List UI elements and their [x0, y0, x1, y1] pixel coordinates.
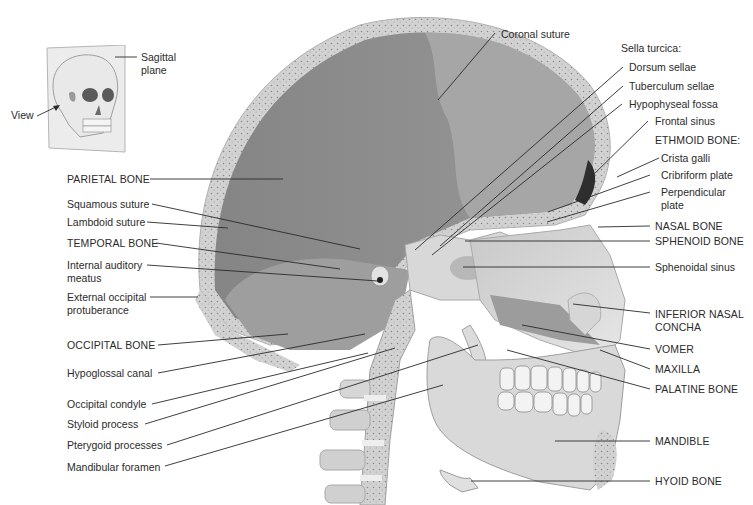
label-sella-turcica: Sella turcica: [621, 42, 681, 55]
label-maxilla: MAXILLA [655, 363, 700, 376]
pterygoid-opening [418, 306, 462, 334]
label-sphenoid-bone: SPHENOID BONE [655, 235, 744, 248]
label-nasal-bone: NASAL BONE [655, 220, 723, 233]
label-vomer: VOMER [655, 343, 694, 356]
label-mandibular-foramen: Mandibular foramen [67, 461, 160, 474]
label-parietal-bone: PARIETAL BONE [67, 173, 150, 186]
label-lambdoid-suture: Lambdoid suture [67, 216, 145, 229]
label-cribriform-plate: Cribriform plate [661, 169, 733, 182]
label-hypophyseal-fossa: Hypophyseal fossa [629, 98, 718, 111]
label-dorsum-sellae: Dorsum sellae [629, 61, 696, 74]
label-sphenoidal-sinus: Sphenoidal sinus [655, 261, 735, 274]
label-external-occipital-protuberance: External occipital protuberance [67, 291, 146, 316]
label-styloid-process: Styloid process [67, 418, 138, 431]
label-squamous-suture: Squamous suture [67, 198, 149, 211]
label-mandible: MANDIBLE [655, 435, 709, 448]
label-occipital-condyle: Occipital condyle [67, 398, 146, 411]
label-occipital-bone: OCCIPITAL BONE [67, 339, 155, 352]
label-tuberculum-sellae: Tuberculum sellae [629, 80, 714, 93]
label-hyoid-bone: HYOID BONE [655, 475, 722, 488]
label-frontal-sinus: Frontal sinus [655, 115, 715, 128]
label-crista-galli: Crista galli [661, 152, 710, 165]
view-label: View [11, 109, 34, 122]
label-internal-auditory-meatus: Internal auditory meatus [67, 259, 142, 284]
label-inferior-nasal-concha: INFERIOR NASAL CONCHA [655, 308, 744, 333]
label-palatine-bone: PALATINE BONE [655, 383, 738, 396]
label-hypoglossal-canal: Hypoglossal canal [67, 367, 152, 380]
orientation-inset [45, 45, 127, 153]
label-temporal-bone: TEMPORAL BONE [67, 237, 158, 250]
label-coronal-suture: Coronal suture [501, 28, 570, 41]
sagittal-plane-label: Sagittal plane [141, 51, 176, 76]
label-ethmoid-bone: ETHMOID BONE: [655, 134, 740, 147]
label-perpendicular-plate: Perpendicular plate [661, 186, 726, 211]
label-pterygoid-processes: Pterygoid processes [67, 439, 162, 452]
